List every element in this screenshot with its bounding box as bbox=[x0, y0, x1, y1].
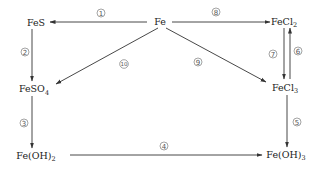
node-fecl2: FeCl2 bbox=[271, 16, 297, 30]
svg-text:5: 5 bbox=[295, 119, 299, 127]
node-feso4: FeSO4 bbox=[19, 83, 49, 97]
step-label-8: 8 bbox=[212, 8, 220, 17]
edge-10-fe-to-feso4 bbox=[56, 28, 158, 84]
svg-text:FeSO4: FeSO4 bbox=[19, 83, 49, 97]
svg-text:Fe(OH)3: Fe(OH)3 bbox=[266, 149, 305, 163]
svg-text:8: 8 bbox=[214, 9, 218, 17]
iron-compounds-diagram: 1 8 2 3 4 5 7 6 10 9 FeS Fe FeC bbox=[0, 0, 324, 169]
step-label-2: 2 bbox=[21, 48, 29, 57]
node-feoh3: Fe(OH)3 bbox=[266, 149, 305, 163]
step-label-6: 6 bbox=[294, 47, 302, 56]
node-fe: Fe bbox=[154, 16, 166, 27]
svg-text:FeCl2: FeCl2 bbox=[271, 16, 297, 30]
svg-text:Fe: Fe bbox=[154, 16, 166, 27]
svg-text:4: 4 bbox=[162, 143, 167, 151]
node-feoh2: Fe(OH)2 bbox=[16, 150, 55, 164]
svg-text:FeCl3: FeCl3 bbox=[272, 82, 298, 96]
step-label-9: 9 bbox=[194, 58, 202, 67]
step-label-4: 4 bbox=[160, 142, 168, 151]
node-fes: FeS bbox=[27, 17, 45, 28]
node-fecl3: FeCl3 bbox=[272, 82, 298, 96]
svg-text:10: 10 bbox=[121, 61, 128, 67]
svg-text:7: 7 bbox=[271, 51, 275, 59]
step-label-5: 5 bbox=[293, 118, 301, 127]
svg-text:FeS: FeS bbox=[27, 17, 45, 28]
svg-text:9: 9 bbox=[196, 59, 200, 67]
svg-text:2: 2 bbox=[23, 49, 27, 57]
edge-9-fe-to-fecl3 bbox=[166, 28, 266, 82]
step-label-10: 10 bbox=[120, 60, 129, 69]
svg-text:6: 6 bbox=[296, 48, 301, 56]
svg-text:3: 3 bbox=[22, 120, 26, 128]
step-label-7: 7 bbox=[269, 50, 277, 59]
svg-text:Fe(OH)2: Fe(OH)2 bbox=[16, 150, 55, 164]
svg-text:1: 1 bbox=[99, 10, 103, 18]
step-label-3: 3 bbox=[20, 119, 28, 128]
step-label-1: 1 bbox=[97, 9, 105, 18]
